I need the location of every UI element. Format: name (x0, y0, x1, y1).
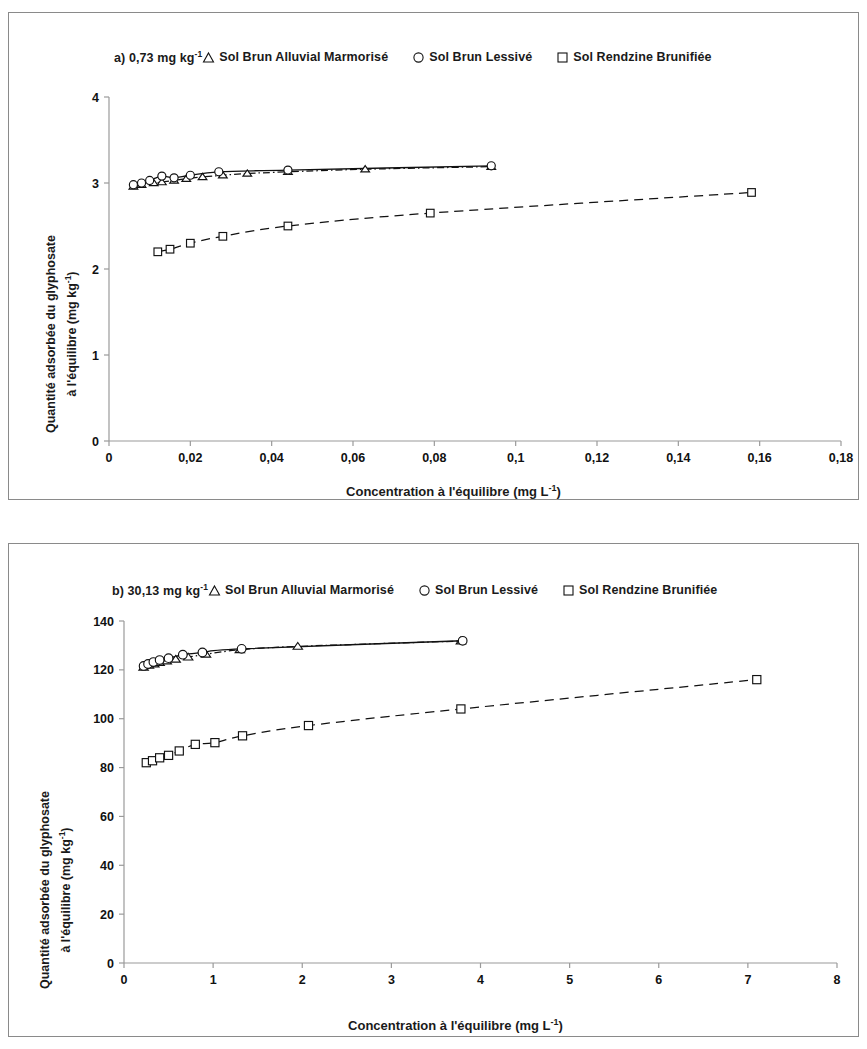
svg-text:4: 4 (477, 973, 484, 987)
svg-text:0,12: 0,12 (585, 451, 609, 465)
svg-text:8: 8 (834, 973, 841, 987)
plot-area-panel-b: 020406080100120140012345678 (9, 544, 860, 1038)
svg-text:0: 0 (106, 451, 113, 465)
svg-text:1: 1 (210, 973, 217, 987)
svg-text:5: 5 (566, 973, 573, 987)
plot-area-panel-a: 0123400,020,040,060,080,10,120,140,160,1… (9, 13, 860, 501)
svg-text:0: 0 (107, 957, 114, 971)
figure-adsorption-isotherms: a) 0,73 mg kg-1 Sol Brun Alluvial Marmor… (0, 0, 867, 1049)
svg-text:20: 20 (100, 908, 114, 922)
svg-text:3: 3 (388, 973, 395, 987)
x-axis-title-panel-a: Concentration à l'équilibre (mg L-1) (29, 483, 867, 499)
svg-text:80: 80 (100, 761, 114, 775)
svg-text:0,08: 0,08 (422, 451, 446, 465)
svg-text:0,06: 0,06 (341, 451, 365, 465)
svg-text:7: 7 (744, 973, 751, 987)
svg-text:0: 0 (92, 435, 99, 449)
svg-text:0,02: 0,02 (178, 451, 202, 465)
svg-text:3: 3 (92, 177, 99, 191)
x-axis-title-panel-b: Concentration à l'équilibre (mg L-1) (31, 1017, 867, 1033)
svg-text:40: 40 (100, 859, 114, 873)
chart-panel-a: a) 0,73 mg kg-1 Sol Brun Alluvial Marmor… (8, 12, 859, 500)
chart-svg-panel-b: 020406080100120140012345678 (9, 544, 860, 1038)
svg-text:0: 0 (121, 973, 128, 987)
svg-text:60: 60 (100, 810, 114, 824)
svg-text:120: 120 (93, 663, 114, 677)
svg-text:0,1: 0,1 (507, 451, 524, 465)
svg-text:1: 1 (92, 349, 99, 363)
chart-svg-panel-a: 0123400,020,040,060,080,10,120,140,160,1… (9, 13, 860, 501)
svg-text:0,16: 0,16 (747, 451, 771, 465)
svg-text:140: 140 (93, 615, 114, 629)
svg-text:100: 100 (93, 712, 114, 726)
svg-text:2: 2 (299, 973, 306, 987)
svg-text:0,04: 0,04 (259, 451, 283, 465)
svg-text:2: 2 (92, 263, 99, 277)
svg-text:0,18: 0,18 (829, 451, 853, 465)
svg-text:4: 4 (92, 91, 99, 105)
svg-text:6: 6 (655, 973, 662, 987)
chart-panel-b: b) 30,13 mg kg-1 Sol Brun Alluvial Marmo… (8, 543, 859, 1037)
svg-text:0,14: 0,14 (666, 451, 690, 465)
